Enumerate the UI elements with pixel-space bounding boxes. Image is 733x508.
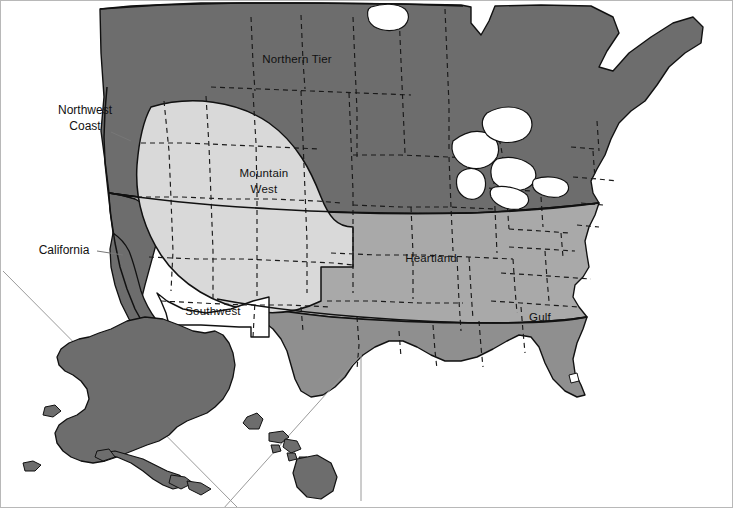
map-frame: Northern Tier Mountain West Southwest He… bbox=[0, 0, 733, 508]
label-gulf: Gulf bbox=[529, 311, 551, 323]
label-heartland: Heartland bbox=[405, 252, 457, 264]
label-california: California bbox=[39, 243, 90, 257]
inset-hawaii bbox=[223, 355, 361, 508]
label-mountain-west-line1: Mountain bbox=[240, 167, 289, 179]
label-mountain-west-line2: West bbox=[251, 183, 278, 195]
hawaii-inset-divider bbox=[223, 355, 361, 508]
us-regions-map: Northern Tier Mountain West Southwest He… bbox=[1, 1, 733, 508]
label-southwest: Southwest bbox=[185, 305, 241, 317]
label-northwest-coast-line2: Coast bbox=[69, 119, 101, 133]
label-northwest-coast-line1: Northwest bbox=[58, 103, 113, 117]
label-northern-tier: Northern Tier bbox=[262, 53, 332, 65]
